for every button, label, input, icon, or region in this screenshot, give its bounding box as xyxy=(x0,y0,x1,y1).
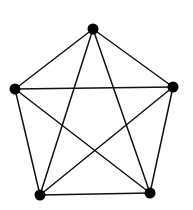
graph-canvas xyxy=(0,0,193,210)
edge-top-bottom-left xyxy=(40,29,93,195)
edge-right-left xyxy=(15,87,173,89)
vertex-bottom-right xyxy=(145,188,156,199)
edge-top-left xyxy=(15,29,93,89)
graph-diagram xyxy=(0,0,193,210)
vertex-top xyxy=(88,24,99,35)
edge-top-bottom-right xyxy=(93,29,150,193)
edges-layer xyxy=(15,29,173,195)
vertex-bottom-left xyxy=(35,190,46,201)
edge-top-right xyxy=(93,29,173,87)
vertex-left xyxy=(10,84,21,95)
vertex-right xyxy=(168,82,179,93)
edge-bottom-right-bottom-left xyxy=(40,193,150,195)
